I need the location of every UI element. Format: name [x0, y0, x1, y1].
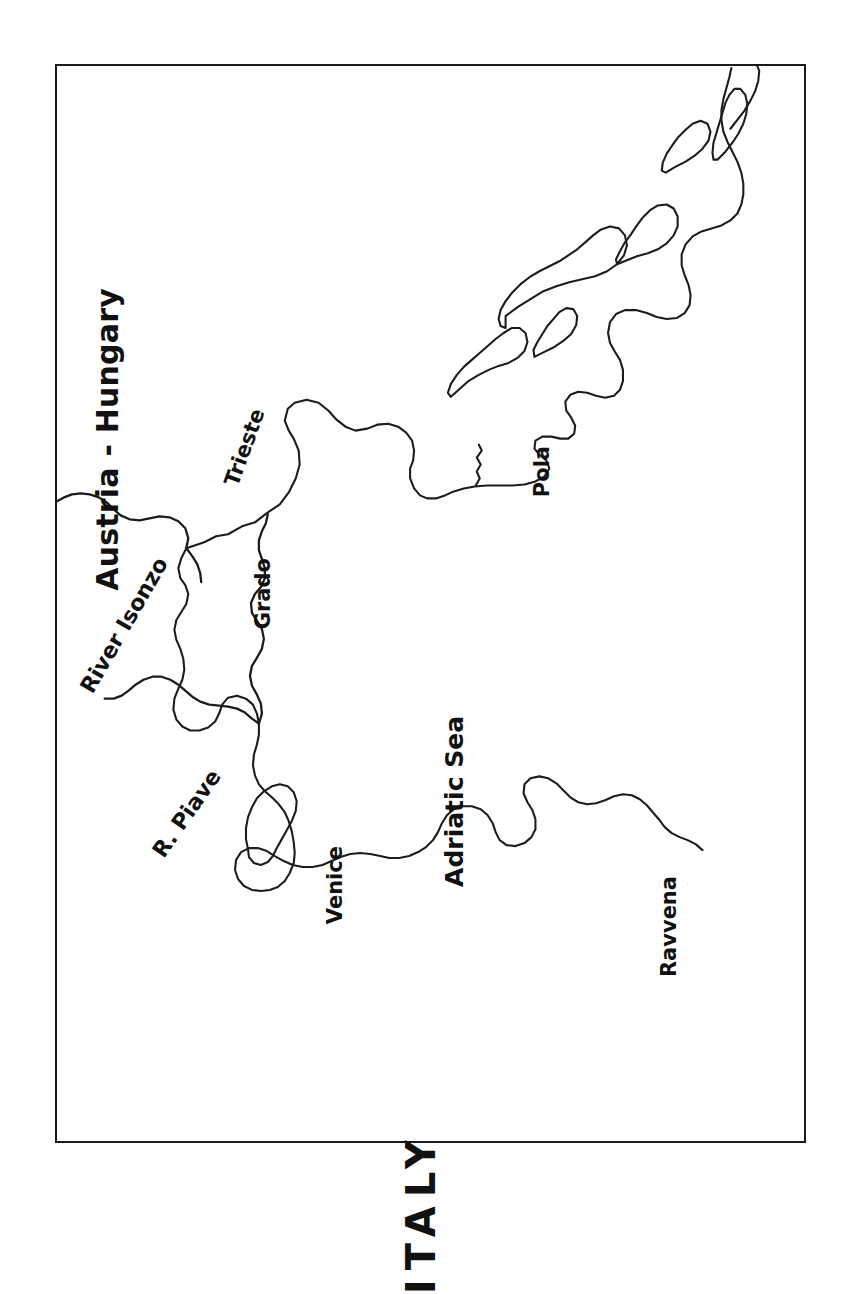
- label-venice: Venice: [325, 846, 346, 924]
- label-pola: Pola: [532, 446, 553, 497]
- island-pag: [712, 89, 747, 160]
- label-ravvena: Ravvena: [659, 876, 680, 977]
- island-losinj-south: [448, 328, 528, 397]
- river-piave-path: [105, 677, 259, 724]
- label-austria-hungary: Austria - Hungary: [93, 288, 123, 591]
- coastline-istria-dalmatia: [186, 68, 743, 548]
- island-cres-losinj: [499, 226, 627, 328]
- river-isonzo-mouth-branch: [186, 548, 201, 582]
- label-grado: Grado: [253, 558, 274, 629]
- map-frame: Austria - Hungary River Isonzo Trieste G…: [55, 64, 806, 1143]
- label-adriatic-sea: Adriatic Sea: [442, 716, 467, 887]
- island-mid-channel: [533, 308, 577, 357]
- coastline-pola-notch: [476, 445, 482, 486]
- label-italy: ITALY: [401, 1131, 441, 1294]
- island-rab: [662, 121, 711, 173]
- map-coastline-drawing: [57, 66, 804, 1141]
